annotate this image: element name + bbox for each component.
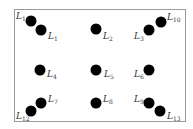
point-l8 — [91, 98, 102, 109]
point-label-l13: L13 — [167, 112, 181, 123]
point-label-l10: L10 — [167, 13, 181, 24]
point-l7 — [36, 98, 47, 109]
point-l4 — [35, 65, 46, 76]
point-label-l8: L8 — [103, 95, 113, 106]
point-label-l5: L5 — [104, 70, 114, 81]
point-label-l7: L7 — [48, 95, 58, 106]
point-l5 — [91, 65, 102, 76]
point-label-l2: L2 — [103, 32, 113, 43]
point-l10 — [156, 17, 167, 28]
point-l13 — [155, 106, 166, 117]
point-l2 — [91, 24, 102, 35]
point-l1 — [36, 25, 47, 36]
point-l3 — [144, 25, 155, 36]
point-label-l3: L3 — [134, 32, 144, 43]
point-label-l4: L4 — [47, 70, 57, 81]
point-label-l9: L9 — [134, 95, 144, 106]
point-l6 — [144, 65, 155, 76]
point-label-l12: L12 — [16, 112, 30, 123]
point-label-l11: L11 — [16, 12, 30, 23]
point-l9 — [144, 98, 155, 109]
point-label-l1: L1 — [48, 32, 58, 43]
point-label-l6: L6 — [134, 70, 144, 81]
